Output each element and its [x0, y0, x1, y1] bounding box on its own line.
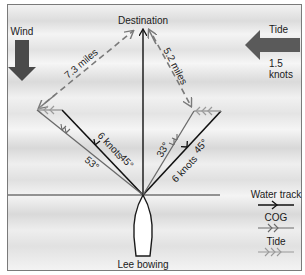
right-tide-vector: [194, 107, 221, 115]
legend-tide-label: Tide: [266, 236, 286, 247]
right-distance-label: 5.2 miles: [161, 46, 189, 86]
boat-icon: [134, 195, 152, 256]
legend-water-track-label: Water track: [251, 189, 303, 200]
right-cog-angle: 33°: [154, 140, 171, 159]
tide-speed-value: 1.5: [269, 58, 283, 69]
wind-arrow-icon: [8, 40, 36, 81]
legend-cog-label: COG: [265, 212, 288, 223]
left-water-track: [62, 110, 143, 195]
right-distance-dashed: [149, 30, 191, 106]
destination-label: Destination: [118, 15, 168, 26]
diagram-title: Lee bowing: [117, 259, 168, 270]
tide-label: Tide: [269, 24, 289, 35]
legend: Water track COG Tide: [251, 189, 303, 256]
lee-bowing-diagram: Destination Wind Tide 1.5 knots 7.3 mile…: [0, 0, 305, 275]
left-distance-dashed: [39, 31, 133, 108]
left-cog-angle: 53°: [83, 154, 102, 172]
right-cog: [143, 111, 194, 195]
tide-speed-unit: knots: [269, 69, 293, 80]
right-water-track-speed: 6 knots: [169, 153, 199, 184]
wind-label: Wind: [11, 26, 34, 37]
